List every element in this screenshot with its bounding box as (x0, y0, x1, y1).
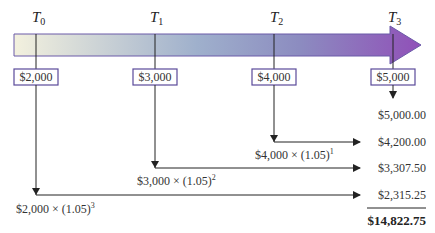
timeline-arrow (14, 26, 421, 64)
formula-t1: $3,000 × (1.05)2 (137, 173, 216, 188)
total-future-value: $14,822.75 (368, 213, 427, 228)
period-label-t1: T1 (150, 9, 163, 27)
future-value-t2: $4,200.00 (378, 135, 426, 149)
deposit-box-t2: $4,000 (252, 69, 296, 85)
deposit-amount: $4,000 (258, 70, 291, 84)
deposit-box-t1: $3,000 (133, 69, 177, 85)
deposit-box-t0: $2,000 (14, 69, 58, 85)
arrowhead-down-t1 (151, 161, 159, 168)
arrowhead-down-t2 (270, 135, 278, 142)
flow-arrow-t2 (274, 85, 360, 142)
period-label-t3: T3 (388, 9, 401, 27)
period-label-t2: T2 (270, 9, 283, 27)
formula-t2: $4,000 × (1.05)1 (255, 147, 334, 162)
period-label-t0: T0 (32, 9, 45, 27)
deposit-box-t3: $5,000 (371, 69, 415, 85)
deposit-amount: $3,000 (139, 70, 172, 84)
future-value-t0: $2,315.25 (378, 188, 426, 202)
arrowhead-down-t0 (32, 188, 40, 195)
future-value-timeline-diagram: T0 T1 T2 T3 $2,000 $3,000 $4,000 $5,000 … (0, 0, 435, 233)
formula-t0: $2,000 × (1.05)3 (16, 201, 95, 216)
deposit-amount: $2,000 (20, 70, 53, 84)
future-value-t1: $3,307.50 (378, 161, 426, 175)
future-value-t3: $5,000.00 (378, 108, 426, 122)
deposit-amount: $5,000 (377, 70, 410, 84)
